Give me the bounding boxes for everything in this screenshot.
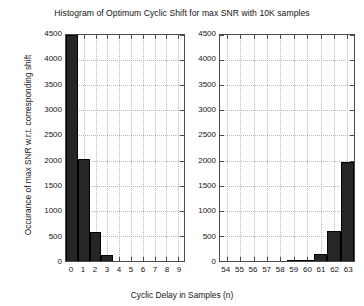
plot-area-left <box>65 34 185 262</box>
y-tick-label: 3000 <box>182 106 216 114</box>
y-tick-label: 2000 <box>182 157 216 165</box>
y-tick-label: 2500 <box>182 131 216 139</box>
x-tick-label: 9 <box>169 265 189 274</box>
histogram-bar <box>314 254 327 261</box>
y-tick-label: 3500 <box>182 81 216 89</box>
y-tick-label: 1000 <box>182 207 216 215</box>
y-tick-label: 2500 <box>28 131 62 139</box>
y-tick-mark <box>350 261 354 262</box>
histogram-bar <box>300 260 313 261</box>
y-tick-label: 0 <box>182 258 216 266</box>
y-tick-label: 0 <box>28 258 62 266</box>
y-tick-mark <box>66 261 70 262</box>
panel-left: 0500100015002000250030003500400045000123… <box>65 34 185 262</box>
y-tick-label: 3000 <box>28 106 62 114</box>
histogram-bar <box>78 159 90 261</box>
y-tick-label: 1000 <box>28 207 62 215</box>
y-tick-label: 2000 <box>28 157 62 165</box>
plot-area-right <box>219 34 355 262</box>
x-tick-label: 63 <box>338 265 358 274</box>
histogram-bar <box>90 232 102 261</box>
y-tick-label: 4500 <box>28 30 62 38</box>
y-axis-label: Occurance of max SNR w.r.t. correspondin… <box>23 30 33 260</box>
bar-series <box>66 35 184 261</box>
histogram-bar <box>101 255 113 261</box>
y-tick-mark <box>220 261 224 262</box>
figure: Histogram of Optimum Cyclic Shift for ma… <box>0 0 364 306</box>
y-tick-label: 3500 <box>28 81 62 89</box>
y-tick-label: 500 <box>28 233 62 241</box>
y-tick-label: 4000 <box>28 55 62 63</box>
panel-right: 0500100015002000250030003500400045005455… <box>219 34 355 262</box>
x-axis-label: Cyclic Delay in Samples (n) <box>0 290 364 300</box>
chart-title: Histogram of Optimum Cyclic Shift for ma… <box>0 8 364 18</box>
histogram-bar <box>327 231 340 261</box>
bar-series <box>220 35 354 261</box>
y-tick-label: 4500 <box>182 30 216 38</box>
histogram-bar <box>341 162 354 261</box>
y-tick-label: 1500 <box>28 182 62 190</box>
histogram-bar <box>287 260 300 261</box>
y-tick-label: 500 <box>182 233 216 241</box>
histogram-bar <box>66 35 78 261</box>
y-tick-label: 1500 <box>182 182 216 190</box>
y-tick-label: 4000 <box>182 55 216 63</box>
